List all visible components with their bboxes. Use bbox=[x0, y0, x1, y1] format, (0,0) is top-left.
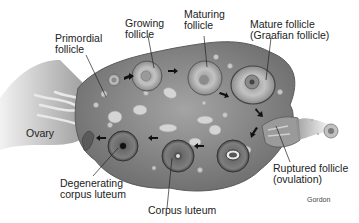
label-corpus-luteum: Corpus luteum bbox=[148, 205, 216, 216]
label-degenerating-corpus-luteum: Degenerating corpus luteum bbox=[60, 178, 126, 200]
label-primordial-follicle: Primordial follicle bbox=[55, 33, 102, 55]
label-ruptured-follicle: Ruptured follicle (ovulation) bbox=[273, 163, 348, 185]
maturing-follicle bbox=[188, 61, 222, 95]
degenerating-corpus-luteum bbox=[108, 131, 138, 161]
label-ovary: Ovary bbox=[26, 128, 54, 139]
corpus-luteum bbox=[162, 140, 194, 172]
ovarian-cycle-diagram: Primordial follicle Growing follicle Mat… bbox=[0, 0, 359, 223]
mature-graafian-follicle bbox=[231, 66, 275, 104]
primordial-follicle bbox=[108, 74, 120, 86]
label-growing-follicle: Growing follicle bbox=[125, 18, 164, 40]
label-mature-follicle: Mature follicle (Graafian follicle) bbox=[250, 19, 329, 41]
forming-corpus-luteum bbox=[217, 140, 249, 172]
growing-follicle bbox=[132, 61, 162, 91]
label-maturing-follicle: Maturing follicle bbox=[184, 9, 225, 31]
credit-label: Gordon bbox=[307, 196, 330, 203]
released-oocyte bbox=[324, 124, 338, 138]
